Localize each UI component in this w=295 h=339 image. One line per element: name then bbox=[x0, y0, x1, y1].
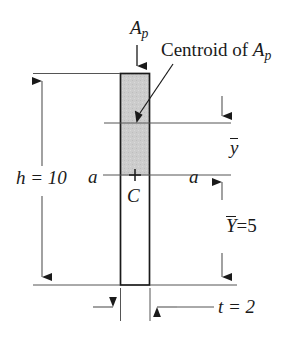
figure-cross-section-diagram: Ap Centroid of Ap h = 10 a a C y Y=5 t =… bbox=[0, 0, 295, 339]
label-Ybar-glyph: Y bbox=[226, 215, 237, 235]
label-Ybar-value: Y=5 bbox=[226, 215, 257, 235]
label-ap: Ap bbox=[130, 18, 148, 41]
label-height-h: h = 10 bbox=[16, 168, 67, 187]
label-centroid-text: Centroid of bbox=[161, 39, 253, 60]
label-section-a-right: a bbox=[189, 167, 199, 186]
label-ybar: y bbox=[230, 137, 238, 157]
label-centroid-of-ap: Centroid of Ap bbox=[161, 40, 271, 63]
label-thickness-t: t = 2 bbox=[218, 297, 255, 316]
label-centroid-ap: A bbox=[253, 39, 265, 60]
label-centroid-ap-subscript: p bbox=[264, 48, 271, 63]
shaded-partial-area-ap bbox=[121, 74, 150, 176]
label-ap-subscript: p bbox=[142, 26, 149, 41]
label-ybar-glyph: y bbox=[230, 137, 238, 157]
label-centroid-c: C bbox=[127, 186, 140, 205]
label-Ybar-number: =5 bbox=[237, 215, 257, 236]
label-section-a-left: a bbox=[88, 167, 98, 186]
